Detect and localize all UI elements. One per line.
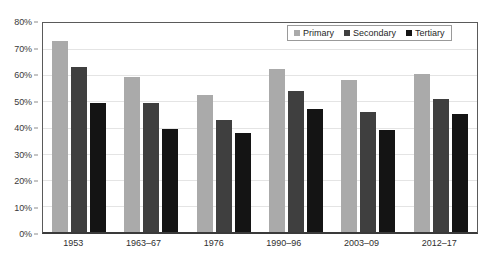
grouped-bar-chart: 0%10%20%30%40%50%60%70%80% 19531963–6719… xyxy=(0,0,484,268)
y-tick-mark xyxy=(34,234,38,235)
bar-secondary-1953 xyxy=(71,67,87,232)
chart-legend: PrimarySecondaryTertiary xyxy=(287,25,452,41)
legend-swatch-icon xyxy=(406,30,412,36)
y-tick-label: 50% xyxy=(14,97,32,107)
bar-group xyxy=(197,23,251,232)
bar-secondary-2003–09 xyxy=(360,112,376,232)
y-tick-mark xyxy=(34,48,38,49)
bar-tertiary-2003–09 xyxy=(379,130,395,232)
y-tick-mark xyxy=(34,128,38,129)
legend-item-tertiary: Tertiary xyxy=(406,28,445,38)
bar-tertiary-1976 xyxy=(235,133,251,232)
legend-swatch-icon xyxy=(294,30,300,36)
bar-group xyxy=(341,23,395,232)
y-tick-mark xyxy=(34,101,38,102)
x-tick-label: 2003–09 xyxy=(344,238,379,248)
legend-label: Primary xyxy=(303,28,334,38)
bar-secondary-1990–96 xyxy=(288,91,304,232)
legend-item-secondary: Secondary xyxy=(344,28,396,38)
legend-swatch-icon xyxy=(344,30,350,36)
x-tick-label: 1990–96 xyxy=(266,238,301,248)
x-axis: 19531963–6719761990–962003–092012–17 xyxy=(42,238,478,248)
bar-primary-1963–67 xyxy=(124,77,140,232)
legend-label: Tertiary xyxy=(415,28,445,38)
x-tick-label: 1953 xyxy=(63,238,83,248)
y-tick-label: 70% xyxy=(14,44,32,54)
y-tick-label: 0% xyxy=(19,229,32,239)
y-tick-mark xyxy=(34,154,38,155)
x-tick-label: 1963–67 xyxy=(126,238,161,248)
y-tick-label: 60% xyxy=(14,70,32,80)
plot-area xyxy=(42,22,478,234)
x-tick-label: 1976 xyxy=(204,238,224,248)
y-axis: 0%10%20%30%40%50%60%70%80% xyxy=(0,22,38,234)
bar-primary-1976 xyxy=(197,95,213,232)
bar-group xyxy=(52,23,106,232)
y-tick-mark xyxy=(34,75,38,76)
y-tick-label: 30% xyxy=(14,150,32,160)
bar-tertiary-1953 xyxy=(90,103,106,232)
bar-group xyxy=(269,23,323,232)
bar-secondary-1976 xyxy=(216,120,232,232)
bar-group xyxy=(414,23,468,232)
bar-primary-1990–96 xyxy=(269,69,285,232)
legend-label: Secondary xyxy=(353,28,396,38)
bar-secondary-1963–67 xyxy=(143,103,159,232)
y-tick-label: 80% xyxy=(14,17,32,27)
legend-item-primary: Primary xyxy=(294,28,334,38)
y-tick-label: 20% xyxy=(14,176,32,186)
bar-tertiary-2012–17 xyxy=(452,114,468,232)
x-tick-label: 2012–17 xyxy=(422,238,457,248)
y-tick-label: 40% xyxy=(14,123,32,133)
bar-primary-2012–17 xyxy=(414,74,430,232)
bar-tertiary-1963–67 xyxy=(162,129,178,232)
bar-primary-2003–09 xyxy=(341,80,357,232)
y-tick-mark xyxy=(34,207,38,208)
bar-tertiary-1990–96 xyxy=(307,109,323,232)
y-tick-label: 10% xyxy=(14,203,32,213)
y-tick-mark xyxy=(34,181,38,182)
bars-layer xyxy=(43,23,477,232)
bar-group xyxy=(124,23,178,232)
bar-secondary-2012–17 xyxy=(433,99,449,232)
y-tick-mark xyxy=(34,22,38,23)
bar-primary-1953 xyxy=(52,41,68,232)
